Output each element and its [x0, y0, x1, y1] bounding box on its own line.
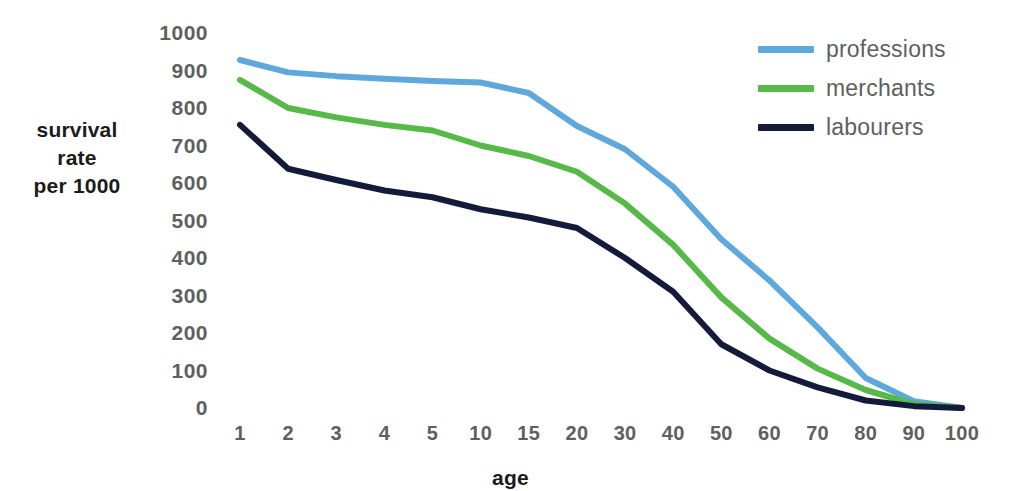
- legend-swatch-professions: [758, 46, 814, 53]
- legend-label-professions: professions: [826, 36, 946, 63]
- legend-entry-merchants[interactable]: merchants: [758, 69, 1008, 108]
- x-axis-title: age: [0, 466, 1021, 490]
- chart-legend: professionsmerchantslabourers: [758, 30, 1008, 147]
- x-axis-tick-labels: 1234510152030405060708090100: [0, 422, 1021, 450]
- legend-label-labourers: labourers: [826, 114, 924, 141]
- legend-swatch-merchants: [758, 85, 814, 92]
- legend-label-merchants: merchants: [826, 75, 935, 102]
- legend-entry-professions[interactable]: professions: [758, 30, 1008, 69]
- survival-rate-chart: survival rate per 1000 10009008007006005…: [0, 0, 1021, 491]
- legend-entry-labourers[interactable]: labourers: [758, 108, 1008, 147]
- legend-swatch-labourers: [758, 124, 814, 131]
- x-tick-label: 100: [932, 422, 992, 445]
